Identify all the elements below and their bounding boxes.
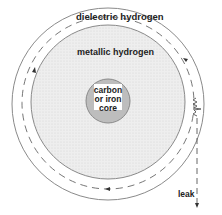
label-leak: leak <box>178 189 195 199</box>
diagram: dielectric hydrogen metallic hydrogen ca… <box>0 0 222 215</box>
label-metallic-hydrogen: metallic hydrogen <box>77 47 154 57</box>
leak-arrow-icon <box>195 203 199 208</box>
label-dielectric-hydrogen: dielectric hydrogen <box>76 11 164 22</box>
label-core-line3: core <box>99 103 117 113</box>
